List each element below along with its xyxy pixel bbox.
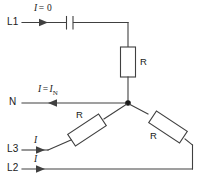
terminal-label-l2: L2 (7, 163, 19, 173)
arrowhead-neutral (48, 99, 57, 106)
current-label-l2: I (34, 155, 37, 165)
wire-resistor-left-to-l3 (48, 140, 71, 150)
terminal-label-n: N (9, 97, 16, 107)
resistor-right-label: R (150, 131, 157, 141)
resistor-left-label: R (76, 110, 83, 120)
arrowhead-l1 (39, 19, 48, 26)
current-value-l1: 0 (47, 3, 52, 13)
current-equals-l1: = (39, 3, 44, 13)
resistor-left-body (68, 114, 107, 146)
wire-resistor-right-to-corner (185, 139, 193, 145)
current-label-l1: I=0 (34, 4, 53, 14)
current-label-neutral: I=IN (38, 85, 58, 97)
current-symbol-l1: I (34, 3, 37, 13)
wire-node-to-resistor-left (104, 104, 127, 119)
circuit-diagram: L1 N L3 L2 R R R I=0 I=IN I I (0, 0, 208, 176)
arrowhead-l2 (36, 165, 45, 172)
current-label-l3: I (34, 136, 37, 146)
arrowhead-l3 (36, 146, 45, 153)
current-symbol-n: I (38, 84, 41, 94)
terminal-label-l3: L3 (7, 144, 19, 154)
terminal-label-l1: L1 (7, 17, 19, 27)
circuit-schematic-svg (0, 0, 208, 176)
current-equals-n: = (43, 84, 48, 94)
resistor-top-label: R (140, 57, 147, 67)
resistor-top-body (121, 47, 136, 77)
current-subscript-n: N (53, 89, 58, 97)
wire-node-to-resistor-right (130, 104, 149, 114)
